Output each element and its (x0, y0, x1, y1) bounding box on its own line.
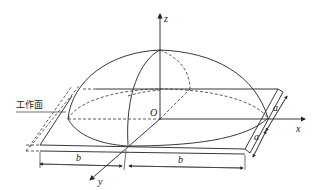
work-surface-label: 工作面 (16, 99, 43, 110)
ellipsoid (68, 50, 268, 146)
x-axis-label: x (295, 123, 301, 134)
y-axis-label: y (97, 176, 103, 187)
plate (40, 89, 283, 154)
z-axis-label: z (163, 13, 168, 24)
work-plane: 工作面 (16, 86, 160, 151)
dim-b-right: b (129, 154, 245, 170)
y-axis: y (90, 89, 190, 187)
dim-a-lower-label: a (254, 131, 259, 142)
dim-a-upper-label: a (273, 102, 278, 113)
dim-b-right-label: b (178, 154, 183, 165)
x-axis: x (160, 119, 305, 134)
dim-b-left-label: b (76, 152, 81, 163)
origin-label: O (150, 107, 157, 118)
dim-a: a a (253, 96, 287, 157)
z-axis: z (160, 13, 168, 120)
ellipsoid-diagram: z 工作面 (0, 0, 318, 190)
